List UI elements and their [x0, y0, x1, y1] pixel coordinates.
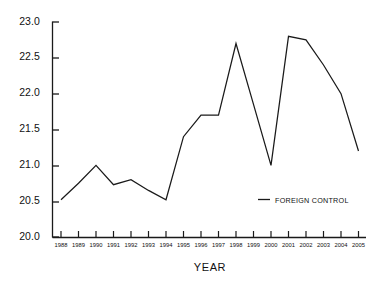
legend-entry-label: FOREIGN CONTROL — [275, 196, 349, 205]
data-series-foreign-control — [61, 36, 359, 199]
x-tick-marks — [61, 231, 359, 238]
y-tick-marks — [53, 22, 60, 237]
x-axis-title: YEAR — [150, 261, 270, 273]
chart-figure: 23.0 22.5 22.0 21.5 21.0 20.5 20.0 — [0, 0, 375, 286]
x-tick-label: 2005 — [347, 242, 371, 248]
